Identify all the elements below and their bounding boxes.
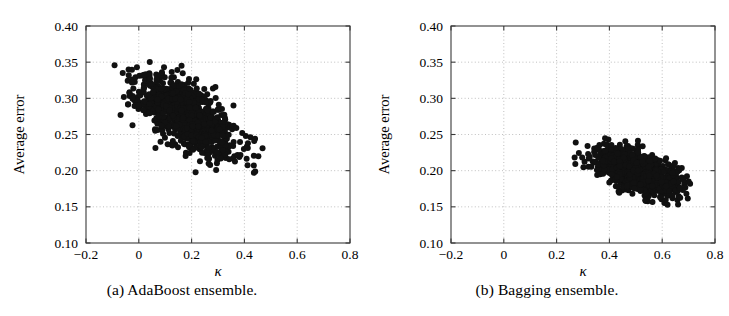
- data-point: [651, 192, 657, 198]
- data-point: [611, 159, 617, 165]
- y-tick-label: 0.25: [54, 127, 78, 142]
- data-point: [154, 97, 160, 103]
- data-point: [126, 90, 132, 96]
- data-point: [160, 80, 166, 86]
- data-point: [226, 156, 232, 162]
- data-point: [239, 130, 245, 136]
- y-axis-label: Average error: [11, 94, 27, 174]
- data-point: [207, 120, 213, 126]
- data-point: [230, 102, 236, 108]
- data-point: [600, 158, 606, 164]
- data-point: [646, 173, 652, 179]
- data-point: [170, 90, 176, 96]
- data-point: [194, 85, 200, 91]
- data-point: [585, 143, 591, 149]
- data-point: [585, 164, 591, 170]
- data-point: [158, 123, 164, 129]
- data-point: [576, 150, 582, 156]
- data-point: [640, 143, 646, 149]
- data-point: [204, 155, 210, 161]
- data-point: [572, 161, 578, 167]
- data-point: [642, 197, 648, 203]
- data-point: [219, 140, 225, 146]
- y-tick-label: 0.35: [54, 55, 78, 70]
- data-point: [129, 80, 135, 86]
- x-tick-label: 0: [500, 247, 507, 262]
- data-point: [592, 152, 598, 158]
- data-point: [669, 192, 675, 198]
- data-point: [121, 94, 127, 100]
- y-tick-label: 0.20: [419, 163, 443, 178]
- x-tick-label: 0.6: [654, 247, 671, 262]
- x-axis-label: κ: [579, 263, 587, 279]
- data-point: [190, 138, 196, 144]
- data-point: [193, 105, 199, 111]
- data-point: [654, 173, 660, 179]
- data-point: [216, 126, 222, 132]
- data-point: [638, 182, 644, 188]
- data-point: [169, 69, 175, 75]
- data-point: [174, 67, 180, 73]
- data-point: [179, 81, 185, 87]
- data-point: [617, 163, 623, 169]
- data-point: [146, 101, 152, 107]
- data-point: [126, 67, 132, 73]
- data-point: [221, 112, 227, 118]
- x-tick-label: 0.4: [236, 247, 253, 262]
- data-point: [199, 150, 205, 156]
- data-point: [203, 99, 209, 105]
- data-point: [158, 86, 164, 92]
- data-point: [572, 155, 578, 161]
- data-point: [158, 139, 164, 145]
- data-point: [245, 162, 251, 168]
- y-tick-label: 0.40: [419, 19, 443, 34]
- data-point: [167, 107, 173, 113]
- data-point: [251, 138, 257, 144]
- data-point: [190, 123, 196, 129]
- data-point: [671, 162, 677, 168]
- data-point: [126, 72, 132, 78]
- x-tick-label: 0.2: [548, 247, 565, 262]
- data-point: [631, 186, 637, 192]
- data-point: [671, 178, 677, 184]
- y-tick-label: 0.30: [54, 91, 78, 106]
- data-point: [170, 112, 176, 118]
- y-axis-label: Average error: [376, 94, 392, 174]
- data-point: [185, 91, 191, 97]
- figure-container: −0.200.20.40.60.80.100.150.200.250.300.3…: [0, 0, 729, 316]
- y-tick-label: 0.40: [54, 19, 78, 34]
- y-tick-label: 0.10: [419, 236, 443, 251]
- data-point: [608, 171, 614, 177]
- data-point: [252, 169, 258, 175]
- data-point: [197, 113, 203, 119]
- data-point: [172, 96, 178, 102]
- data-point: [193, 76, 199, 82]
- data-point: [251, 153, 257, 159]
- x-tick-label: 0.8: [707, 247, 724, 262]
- data-point: [112, 62, 118, 68]
- data-point: [573, 140, 579, 146]
- data-point: [665, 161, 671, 167]
- data-point: [683, 191, 689, 197]
- data-point: [663, 183, 669, 189]
- data-point: [213, 167, 219, 173]
- data-point: [608, 142, 614, 148]
- data-point: [251, 163, 257, 169]
- data-point: [214, 160, 220, 166]
- data-point: [175, 144, 181, 150]
- data-point: [663, 197, 669, 203]
- data-point: [226, 132, 232, 138]
- data-point: [210, 86, 216, 92]
- data-point: [203, 139, 209, 145]
- y-tick-label: 0.20: [54, 163, 78, 178]
- data-point: [171, 130, 177, 136]
- data-point: [677, 185, 683, 191]
- data-point: [230, 143, 236, 149]
- data-point: [652, 155, 658, 161]
- data-point: [187, 105, 193, 111]
- y-tick-label: 0.25: [419, 127, 443, 142]
- data-point: [205, 108, 211, 114]
- data-point: [197, 158, 203, 164]
- data-point: [150, 89, 156, 95]
- data-point: [216, 102, 222, 108]
